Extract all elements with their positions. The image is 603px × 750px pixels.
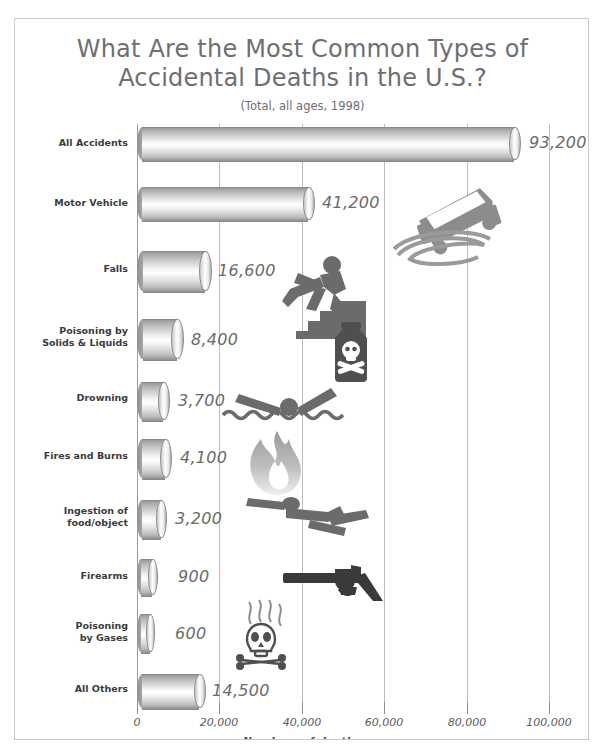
axis-ticklabel-100000: 100,000 [526,716,572,729]
category-label: Motor Vehicle [14,197,128,209]
category-label-line-1: Ingestion of [64,505,128,516]
category-label-line-1: Drowning [77,392,128,403]
collapsed-person-icon [242,492,372,540]
x-axis-title: Numbers of deaths [15,735,589,740]
category-label: Ingestion of food/object [14,505,128,528]
gridline-100000 [549,124,550,702]
category-label-line-1: Poisoning [75,620,128,631]
category-label-line-2: Solids & Liquids [42,337,128,348]
category-label: Falls [14,263,128,275]
category-label-line-1: All Accidents [59,137,128,148]
axis-ticklabel-60000: 60,000 [365,716,404,729]
axis-ticklabel-20000: 20,000 [200,716,239,729]
bar-all-others[interactable] [137,674,205,708]
category-label: Drowning [14,392,128,404]
bar-firearms[interactable] [137,559,157,595]
bar-falls[interactable] [137,251,211,291]
bar-end-cap [171,319,184,359]
chart-frame: What Are the Most Common Types of Accide… [14,18,589,740]
bar-end-cap [148,559,158,595]
bar-end-cap [158,382,170,420]
bar-end-cap [156,500,167,538]
axis-ticklabel-0: 0 [134,716,141,729]
bar-end-cap [146,614,155,652]
bar-value-label: 3,200 [175,509,222,528]
axis-tick-80000 [467,702,468,714]
category-label-line-1: Motor Vehicle [54,197,128,208]
bar-end-cap [194,674,206,708]
category-label-line-2: food/object [67,517,128,528]
bar-end-cap [303,187,315,220]
category-label-line-2: by Gases [80,632,128,643]
bar-body [142,187,308,222]
bar-body [142,127,514,162]
flame-icon [239,425,313,501]
bar-value-label: 3,700 [178,391,225,410]
axis-tick-60000 [384,702,385,714]
page-header [0,0,603,16]
bar-end-cap [509,127,521,160]
axis-ticklabel-80000: 80,000 [448,716,487,729]
axis-tick-40000 [302,702,303,714]
category-label: All Others [14,683,128,695]
category-label: All Accidents [14,137,128,149]
category-label: Poisoning by Solids & Liquids [14,325,128,348]
poison-bottle-icon [323,322,379,384]
bar-ingestion[interactable] [137,500,166,538]
category-label: Poisoning by Gases [14,620,128,643]
bar-all-accidents[interactable] [137,127,520,160]
category-label-line-1: Poisoning by [59,325,128,336]
bar-value-label: 4,100 [180,448,227,467]
bar-body [142,674,199,710]
bar-body [143,251,205,293]
axis-tick-20000 [219,702,220,714]
bar-poisoning-by-gases[interactable] [137,614,154,652]
bar-value-label: 600 [175,624,206,643]
bar-end-cap [199,251,212,291]
category-label: Fires and Burns [14,450,128,462]
bar-value-label: 41,200 [322,193,380,212]
category-label-line-1: Fires and Burns [44,450,128,461]
bar-drowning[interactable] [137,382,169,420]
bar-end-cap [160,439,172,478]
category-label: Firearms [14,570,128,582]
crashed-car-icon [392,189,512,267]
bar-value-label: 8,400 [191,330,238,349]
category-label-line-1: Falls [103,263,128,274]
axis-ticklabel-40000: 40,000 [283,716,322,729]
bar-fires-and-burns[interactable] [137,439,171,478]
gas-skull-icon [227,596,311,668]
bar-motor-vehicle[interactable] [137,187,314,220]
bar-value-label: 93,200 [529,133,587,152]
category-label-line-1: Firearms [80,570,128,581]
plot-area: 0 20,000 40,000 60,000 80,000 100,000 Nu… [15,19,589,740]
gridline-60000 [384,124,385,702]
bar-value-label: 900 [178,567,209,586]
axis-tick-100000 [549,702,550,714]
drowning-person-icon [221,382,353,428]
bar-value-label: 14,500 [212,681,270,700]
category-label-line-1: All Others [75,683,128,694]
bar-poisoning-solids-liquids[interactable] [137,319,183,359]
